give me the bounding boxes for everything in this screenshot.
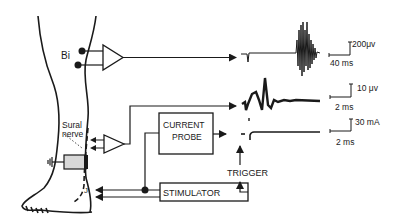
sural-amplifier-icon <box>104 135 124 153</box>
ankle-cuff <box>64 155 86 169</box>
current-probe-label-1: CURRENT <box>163 120 205 130</box>
scale-emg-horizontal: 40 ms <box>330 58 353 68</box>
bi-label: Bi <box>61 50 70 61</box>
bi-amplifier-icon <box>103 45 123 70</box>
scale-bar-sural <box>330 84 353 99</box>
scale-bar-current <box>330 119 353 133</box>
reflex-setup-diagram: Bi Sural nerve CURRENT PROBE STIMULATOR … <box>0 0 400 220</box>
trace-sural <box>242 78 320 110</box>
scale-bar-emg <box>329 42 352 57</box>
trace-emg <box>241 22 320 76</box>
scale-current-vertical: 30 mA <box>355 117 380 127</box>
trigger-label: TRIGGER <box>227 168 269 178</box>
scale-current-horizontal: 2 ms <box>336 137 354 147</box>
current-probe-label-2: PROBE <box>172 132 202 142</box>
scale-sural-horizontal: 2 ms <box>335 102 353 112</box>
j-label: J <box>84 186 88 195</box>
leg-outline <box>22 16 96 213</box>
scale-sural-vertical: 10 μv <box>357 83 379 93</box>
sural-nerve-label-2: nerve <box>62 129 84 139</box>
scale-emg-vertical: 200μv <box>352 39 376 49</box>
stimulator-label: STIMULATOR <box>163 188 221 198</box>
trace-current <box>241 118 320 140</box>
